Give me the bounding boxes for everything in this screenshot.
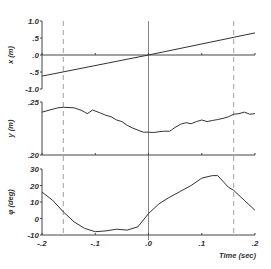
y-tick-label: .0 [32, 51, 39, 60]
chart-figure: 1.0.5.0-.5-1.0x (m).25.20y (m)3020100-10… [0, 0, 271, 269]
y-tick-label: .25 [28, 98, 40, 107]
panel-1: 1.0.5.0-.5-1.0x (m) [6, 17, 255, 94]
y-tick-label: 0 [35, 215, 40, 224]
y-tick-label: -.5 [30, 68, 40, 77]
y-tick-label: 20 [29, 182, 39, 191]
chart-panels: 1.0.5.0-.5-1.0x (m).25.20y (m)3020100-10… [6, 17, 255, 240]
x-axis: -.2-.1.0.1.2Time (sec) [37, 239, 259, 260]
y-tick-label: 30 [30, 165, 39, 174]
y-tick-label: -1.0 [25, 85, 39, 94]
y-axis-label: y (m) [6, 119, 15, 138]
y-tick-label: .20 [28, 151, 40, 160]
y-tick-label: 10 [30, 198, 39, 207]
y-axis-label: φ (deg) [6, 189, 15, 215]
x-tick-label: .0 [145, 239, 152, 248]
x-tick-label: -.2 [37, 239, 47, 248]
x-tick-label: .2 [252, 239, 259, 248]
panel-2: .25.20y (m) [6, 98, 255, 160]
x-tick-label: -.1 [91, 239, 101, 248]
y-axis-label: x (m) [6, 46, 15, 65]
y-tick-label: .5 [32, 34, 39, 43]
panel-3: 3020100-10φ (deg) [6, 165, 255, 240]
x-axis-label: Time (sec) [219, 251, 256, 260]
x-tick-label: .1 [198, 239, 205, 248]
y-tick-label: 1.0 [28, 17, 40, 26]
